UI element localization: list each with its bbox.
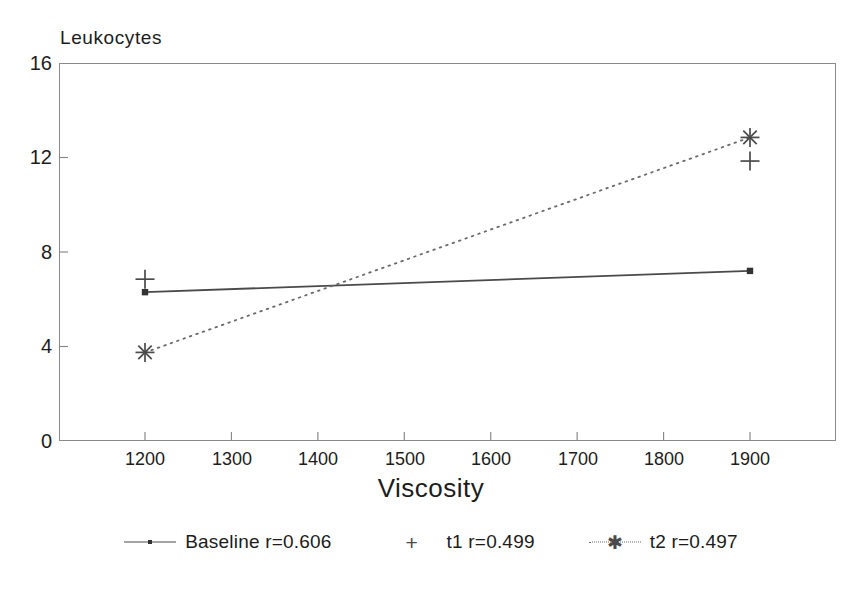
legend-key-t1: +	[386, 533, 438, 551]
square-marker-icon	[148, 540, 152, 544]
data-point-square	[142, 289, 148, 295]
chart-data-layer	[0, 0, 862, 604]
legend-label-t2: t2 r=0.497	[650, 531, 738, 553]
legend-key-baseline	[124, 533, 176, 551]
plus-marker-icon: +	[405, 532, 417, 553]
series-1	[142, 268, 753, 296]
legend-item-baseline: Baseline r=0.606	[124, 531, 331, 553]
legend-label-t1: t1 r=0.499	[447, 531, 535, 553]
series-2	[136, 152, 760, 289]
asterisk-marker-icon: ✱	[607, 533, 623, 552]
axis-tick-marks	[59, 158, 750, 442]
legend-key-t2: ✱	[589, 533, 641, 551]
legend-label-baseline: Baseline r=0.606	[185, 531, 331, 553]
legend-item-t1: + t1 r=0.499	[386, 531, 535, 553]
data-point-square	[747, 268, 753, 274]
chart-legend: Baseline r=0.606 + t1 r=0.499 ✱ t2 r=0.4…	[0, 531, 862, 553]
chart-figure: Leukocytes 16 12 8 4 0 1200 1300 1400 15…	[0, 0, 862, 604]
x-axis-title: Viscosity	[0, 473, 862, 504]
legend-item-t2: ✱ t2 r=0.497	[589, 531, 738, 553]
series-3	[136, 128, 760, 362]
